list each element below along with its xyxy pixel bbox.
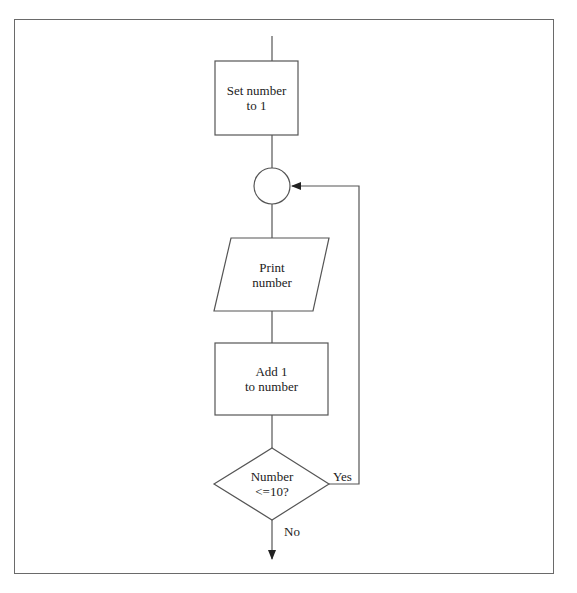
init-box-label: Set number to 1 xyxy=(215,61,298,135)
loop-connector-circle xyxy=(254,168,290,204)
increment-label-line-1: Add 1 xyxy=(255,364,287,379)
increment-label-line-2: to number xyxy=(245,379,298,394)
print-box-label: Print number xyxy=(222,238,322,311)
yes-loop-back-line xyxy=(292,186,359,484)
no-edge-label: No xyxy=(284,524,300,539)
decision-label-line-1: Number xyxy=(251,469,294,484)
flowchart-canvas: Set number to 1 Print number Add 1 to nu… xyxy=(0,0,577,593)
decision-label: Number <=10? xyxy=(222,466,322,502)
init-label-line-1: Set number xyxy=(227,83,287,98)
decision-label-line-2: <=10? xyxy=(255,484,288,499)
init-label-line-2: to 1 xyxy=(247,98,267,113)
print-label-line-2: number xyxy=(252,275,292,290)
yes-edge-label: Yes xyxy=(333,469,352,484)
print-label-line-1: Print xyxy=(259,260,284,275)
increment-box-label: Add 1 to number xyxy=(215,343,328,415)
